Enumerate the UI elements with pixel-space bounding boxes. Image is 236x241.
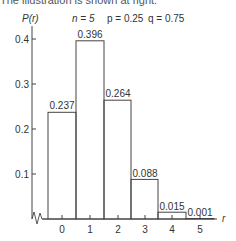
y-ticks: 0.1 0.2 0.3 0.4 bbox=[15, 34, 36, 180]
bar-1 bbox=[76, 41, 104, 219]
value-label: 0.396 bbox=[77, 29, 102, 40]
param-q: q = 0.75 bbox=[148, 13, 185, 24]
bar-3 bbox=[131, 179, 158, 219]
y-axis-label: P(r) bbox=[22, 13, 39, 24]
xtick-label: 3 bbox=[142, 224, 148, 235]
ytick-label: 0.1 bbox=[15, 169, 29, 180]
xtick-label: 2 bbox=[115, 224, 121, 235]
value-label: 0.237 bbox=[49, 100, 74, 111]
x-axis-label: r bbox=[222, 213, 226, 224]
xtick-label: 1 bbox=[87, 224, 93, 235]
xtick-label: 4 bbox=[169, 224, 175, 235]
axis-break-icon bbox=[32, 212, 48, 224]
value-label: 0.015 bbox=[159, 201, 184, 212]
ytick-label: 0.2 bbox=[15, 124, 29, 135]
xtick-label: 5 bbox=[197, 224, 203, 235]
ytick-label: 0.4 bbox=[15, 34, 29, 45]
bar-0 bbox=[48, 112, 76, 219]
bar-2 bbox=[104, 100, 131, 219]
ytick-label: 0.3 bbox=[15, 79, 29, 90]
bars bbox=[48, 41, 214, 219]
xtick-label: 0 bbox=[59, 224, 65, 235]
binomial-histogram: 0.1 0.2 0.3 0.4 P(r) n = 5 p = 0.25 q = … bbox=[0, 0, 236, 241]
param-n: n = 5 bbox=[72, 13, 95, 24]
value-label: 0.088 bbox=[132, 168, 157, 179]
param-p: p = 0.25 bbox=[107, 13, 144, 24]
value-label: 0.264 bbox=[105, 88, 130, 99]
